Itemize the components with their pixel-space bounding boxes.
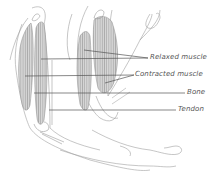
right-triceps-relaxed [77, 32, 91, 111]
left-arm-muscles [19, 14, 64, 144]
label-bone: Bone [187, 89, 205, 96]
left-tendon-top [32, 14, 40, 21]
right-arm-muscles [77, 10, 130, 118]
label-contracted-muscle: Contracted muscle [135, 71, 203, 78]
right-biceps-contracted [93, 16, 117, 92]
leader-relaxed-1 [41, 58, 148, 59]
left-biceps [19, 23, 33, 110]
arm-muscle-diagram [0, 0, 215, 180]
label-relaxed-muscle: Relaxed muscle [150, 54, 207, 61]
left-triceps [35, 22, 47, 124]
right-bone [96, 96, 118, 118]
label-tendon: Tendon [178, 106, 204, 113]
